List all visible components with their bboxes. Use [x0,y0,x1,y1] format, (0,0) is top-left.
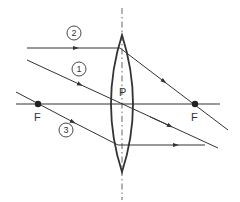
focus-right-label: F [191,111,198,123]
svg-text:2: 2 [71,28,76,38]
svg-text:1: 1 [76,64,81,74]
focus-right-point [192,101,198,107]
ray-diagram: F F P 2 1 3 [0,0,240,202]
ray-2 [27,48,228,130]
focus-left-label: F [34,111,41,123]
ray-1-marker: 1 [72,62,86,76]
optical-center-label: P [119,86,126,98]
ray-3-marker: 3 [59,123,73,137]
ray-2-marker: 2 [67,26,81,40]
focus-left-point [35,101,41,107]
svg-text:3: 3 [63,125,68,135]
